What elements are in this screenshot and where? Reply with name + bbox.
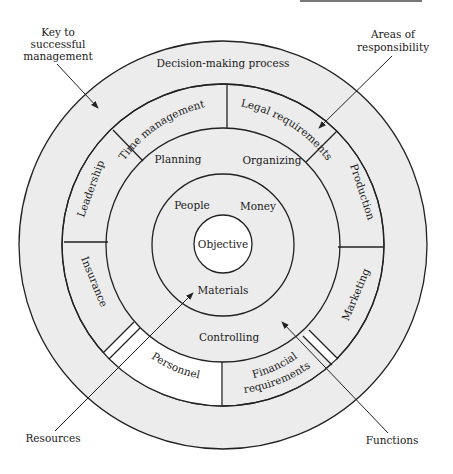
- label-controlling: Controlling: [199, 331, 260, 343]
- label-materials: Materials: [198, 284, 249, 296]
- label-decision-making-process: Decision-making process: [157, 57, 290, 69]
- label-planning: Planning: [154, 153, 201, 165]
- management-concentric-diagram: Decision-making process Time management …: [0, 0, 453, 474]
- label-organizing: Organizing: [242, 154, 301, 166]
- annotation-key-line1: Key to: [41, 26, 75, 38]
- annotation-functions: Functions: [366, 434, 419, 446]
- label-objective: Objective: [198, 238, 248, 250]
- label-people: People: [174, 199, 209, 211]
- annotation-key-line2: successful: [31, 38, 87, 50]
- annotation-areas-line1: Areas of: [370, 28, 416, 40]
- label-money: Money: [240, 200, 276, 212]
- annotation-areas-line2: responsibility: [357, 41, 429, 53]
- annotation-key-line3: management: [23, 50, 93, 62]
- annotation-resources: Resources: [25, 432, 80, 444]
